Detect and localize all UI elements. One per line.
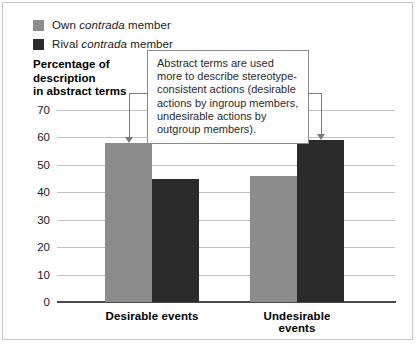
y-tick-label-30: 30 xyxy=(10,214,50,226)
bar-group2-series1 xyxy=(250,176,297,302)
y-tick-label-60: 60 xyxy=(10,131,50,143)
legend-swatch-rival xyxy=(33,39,44,50)
callout-arrowhead xyxy=(317,134,325,140)
legend-label-rival: Rival contrada member xyxy=(52,38,173,50)
legend-rival-italic: contrada xyxy=(81,38,127,50)
y-axis-title: Percentage of description in abstract te… xyxy=(33,58,127,99)
callout-leader-vertical xyxy=(129,93,130,138)
chart-figure: Own contrada member Rival contrada membe… xyxy=(0,0,416,349)
callout-leader-vertical xyxy=(321,93,322,135)
y-axis-title-line1: Percentage of xyxy=(33,58,127,72)
legend-rival-prefix: Rival xyxy=(52,38,81,50)
x-axis-label-group2: Undesirable events xyxy=(250,310,344,334)
y-axis-title-line2: description xyxy=(33,72,127,86)
callout-leader-horizontal xyxy=(129,93,150,94)
callout-arrowhead xyxy=(125,137,133,143)
legend-own-italic: contrada xyxy=(79,19,125,31)
y-tick-label-50: 50 xyxy=(10,159,50,171)
bar-group1-series1 xyxy=(105,143,152,302)
bar-group2-series2 xyxy=(297,140,344,302)
legend-rival-suffix: member xyxy=(127,38,173,50)
y-tick-label-40: 40 xyxy=(10,186,50,198)
x-axis-label-group1: Desirable events xyxy=(105,310,199,322)
y-axis-title-line3: in abstract terms xyxy=(33,85,127,99)
legend-label-own: Own contrada member xyxy=(52,19,171,31)
annotation-callout: Abstract terms are used more to describe… xyxy=(147,50,309,144)
y-tick-label-0: 0 xyxy=(10,296,50,308)
callout-leader-horizontal xyxy=(307,93,321,94)
y-tick-label-10: 10 xyxy=(10,269,50,281)
legend-item-own: Own contrada member xyxy=(33,17,173,33)
y-axis-ticks: 010203040506070 xyxy=(8,110,50,302)
legend-swatch-own xyxy=(33,20,44,31)
legend-own-suffix: member xyxy=(125,19,171,31)
legend-own-prefix: Own xyxy=(52,19,79,31)
y-tick-label-20: 20 xyxy=(10,241,50,253)
bar-group1-series2 xyxy=(152,179,199,302)
y-tick-label-70: 70 xyxy=(10,104,50,116)
